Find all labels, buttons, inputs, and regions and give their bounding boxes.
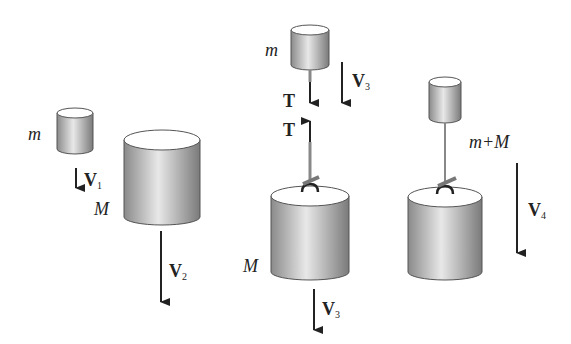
label-v1: V1 bbox=[84, 171, 102, 191]
small-cylinder-m-1 bbox=[57, 108, 93, 154]
large-cylinder-M-1 bbox=[124, 130, 200, 225]
label-M-2: M bbox=[243, 257, 258, 275]
label-m-1: m bbox=[28, 125, 41, 143]
label-tension-down: T bbox=[283, 92, 295, 110]
label-m-2: m bbox=[265, 41, 278, 59]
label-m-plus-M: m+M bbox=[469, 133, 509, 151]
large-cylinder-M-2 bbox=[271, 177, 349, 280]
label-v3-upper: V3 bbox=[352, 72, 370, 92]
label-M-1: M bbox=[94, 200, 109, 218]
small-cylinder-m-2 bbox=[291, 25, 329, 70]
small-cylinder-combined bbox=[429, 77, 461, 123]
large-cylinder-combined bbox=[408, 178, 482, 280]
label-tension-up: T bbox=[283, 121, 295, 139]
label-v2: V2 bbox=[169, 262, 187, 282]
label-v4: V4 bbox=[528, 201, 546, 221]
label-v3-lower: V3 bbox=[322, 300, 340, 320]
